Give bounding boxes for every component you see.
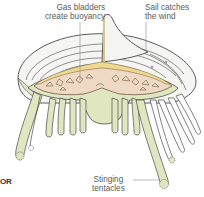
organism-illustration	[0, 0, 204, 197]
sail	[102, 14, 148, 62]
label-tentacles: Stinging tentacles	[92, 175, 125, 194]
label-line: Gas bladders	[45, 3, 105, 12]
edge-text-fragment: OR	[0, 177, 12, 186]
label-line: the wind	[145, 12, 189, 21]
label-line: tentacles	[92, 184, 125, 193]
label-line: Stinging	[92, 175, 125, 184]
label-line: create buoyancy	[45, 12, 105, 21]
label-line: Sail catches	[145, 3, 189, 12]
label-sail: Sail catches the wind	[145, 3, 189, 22]
label-gas-bladders: Gas bladders create buoyancy	[45, 3, 105, 22]
diagram-canvas: Gas bladders create buoyancy Sail catche…	[0, 0, 204, 197]
